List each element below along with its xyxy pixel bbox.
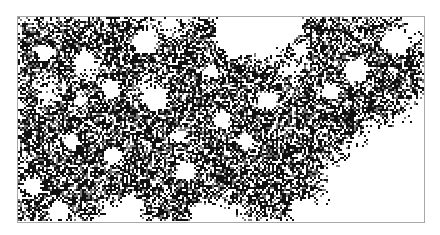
percolation-figure bbox=[0, 0, 440, 235]
cluster-pattern bbox=[0, 0, 440, 235]
